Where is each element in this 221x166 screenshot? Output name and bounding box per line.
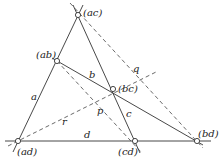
label-cd: (cd): [118, 146, 138, 157]
point-ac: [75, 12, 80, 17]
line-b: [52, 58, 203, 145]
point-bd: [194, 138, 199, 143]
point-ad: [15, 138, 20, 143]
point-bc: [110, 86, 115, 91]
label-c: c: [126, 108, 132, 119]
quadrilateral-diagram: (ac) (ab) (bc) (ad) (cd) (bd) a b c d p …: [0, 0, 221, 166]
label-q: q: [133, 63, 139, 74]
label-ac: (ac): [83, 7, 102, 18]
label-d: d: [84, 129, 90, 140]
label-p: p: [97, 105, 104, 116]
label-b: b: [89, 69, 95, 80]
label-a: a: [31, 91, 37, 102]
label-ab: (ab): [36, 49, 56, 60]
label-bd: (bd): [198, 128, 219, 139]
point-cd: [132, 138, 137, 143]
label-r: r: [62, 116, 68, 127]
label-bc: (bc): [118, 83, 138, 94]
label-ad: (ad): [17, 146, 37, 157]
line-a: [13, 5, 83, 152]
